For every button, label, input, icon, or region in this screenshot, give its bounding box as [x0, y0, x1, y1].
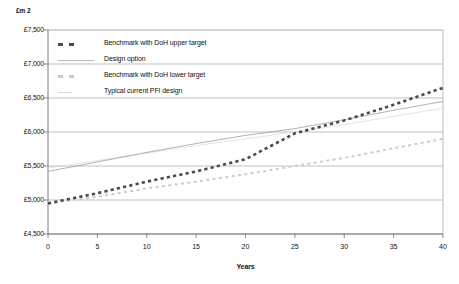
dashed-dark-icon [58, 43, 94, 46]
x-tick-label: 0 [36, 243, 60, 250]
y-tick-label: £7,500 [0, 26, 44, 33]
chart-container: £m 2 Benchmark with DoH upper target Des… [0, 0, 459, 284]
legend-item-label: Design option [104, 52, 146, 66]
legend-item: Benchmark with DoH upper target [58, 36, 258, 52]
y-tick-label: £6,000 [0, 128, 44, 135]
legend-item: Benchmark with DoH lower target [58, 68, 258, 84]
series-line [48, 139, 443, 204]
x-tick-label: 40 [431, 243, 455, 250]
x-tick-label: 15 [184, 243, 208, 250]
series-line [48, 101, 443, 171]
x-tick-label: 20 [234, 243, 258, 250]
x-tick-label: 5 [85, 243, 109, 250]
chart-legend: Benchmark with DoH upper target Design o… [58, 36, 258, 100]
y-tick-label: £5,000 [0, 196, 44, 203]
x-tick-label: 35 [382, 243, 406, 250]
legend-item-label: Typical current PFI design [104, 84, 182, 98]
series-line [48, 88, 443, 204]
y-tick-label: £4,500 [0, 230, 44, 237]
legend-item: Design option [58, 52, 258, 68]
y-tick-label: £7,000 [0, 60, 44, 67]
x-axis-title: Years [186, 263, 306, 270]
solid-faint-icon [58, 92, 72, 93]
x-tick-label: 25 [283, 243, 307, 250]
x-tick-label: 10 [135, 243, 159, 250]
series-line [48, 108, 443, 168]
legend-item-label: Benchmark with DoH upper target [104, 36, 206, 50]
legend-item-label: Benchmark with DoH lower target [104, 68, 205, 82]
x-tick-label: 30 [332, 243, 356, 250]
y-tick-label: £5,500 [0, 162, 44, 169]
dashed-light-icon [58, 75, 94, 78]
solid-thin-icon [58, 60, 94, 61]
y-tick-label: £6,500 [0, 94, 44, 101]
legend-item: Typical current PFI design [58, 84, 258, 100]
